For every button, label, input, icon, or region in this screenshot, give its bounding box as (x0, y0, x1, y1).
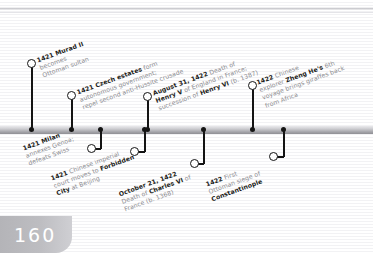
page-top-rule (0, 7, 373, 10)
timeline-node-first-ottoman-siege (269, 152, 278, 161)
timeline-stem-murad-ii (31, 67, 33, 128)
timeline-stem-milan-annexes-genoa (100, 131, 102, 149)
page-number: 160 (14, 224, 56, 246)
timeline-elbow-first-ottoman-siege (277, 156, 284, 158)
timeline-stem-forbidden-city-move (144, 131, 146, 152)
timeline-stem-first-ottoman-siege (283, 131, 285, 157)
timeline-label-first-ottoman-siege: 1422 First Ottoman siege of Constantinop… (205, 162, 265, 204)
timeline-stem-zheng-he-sixth-voyage (252, 89, 254, 128)
page-top-rule-secondary (0, 12, 373, 13)
timeline-elbow-forbidden-city-move (138, 151, 145, 153)
timeline-node-death-of-henry-v (143, 92, 152, 101)
timeline-label-murad-ii: 1421 Murad II becomes Ottoman sultan (36, 40, 90, 80)
timeline-node-milan-annexes-genoa (87, 144, 96, 153)
timeline-page: 1421 Murad II becomes Ottoman sultan 142… (0, 0, 373, 253)
timeline-node-czech-estates (67, 91, 76, 100)
timeline-stem-death-of-charles-vi (203, 131, 205, 164)
timeline-node-death-of-charles-vi (190, 159, 199, 168)
page-number-tab: 160 (0, 216, 72, 253)
timeline-stem-czech-estates (71, 99, 73, 128)
timeline-stem-death-of-henry-v (147, 100, 149, 128)
timeline-node-murad-ii (27, 59, 36, 68)
event-text-charles-vi-of: of (182, 173, 192, 182)
timeline-label-death-of-charles-vi: October 21, 1422 Death of Charles VI of … (118, 166, 195, 214)
timeline-label-zheng-he-sixth-voyage: 1422 Chinese explorer Zheng He's 6th voy… (255, 49, 348, 110)
